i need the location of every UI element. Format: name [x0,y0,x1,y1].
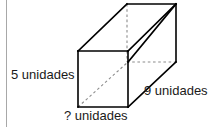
edge-top-face-diagonal [128,4,176,62]
hidden-edge-body-diagonal [78,62,128,107]
edge-receding-top-right [128,4,176,51]
depth-label: 9 unidades [144,83,208,98]
width-label: ? unidades [64,108,128,123]
height-label: 5 unidades [11,67,75,82]
prism-figure: 5 unidades 9 unidades ? unidades [0,0,220,127]
edge-receding-top-left [78,4,127,51]
